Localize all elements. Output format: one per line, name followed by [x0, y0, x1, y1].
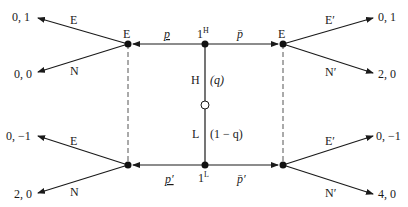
payoff-left-top-E: 0, 1: [12, 10, 30, 24]
label-action-right-top-E: E′: [325, 13, 335, 27]
payoff-left-bottom-N: 2, 0: [14, 187, 32, 201]
label-action-right-bottom-E: E′: [325, 134, 335, 148]
label-action-right-bottom-N: N′: [325, 186, 337, 200]
label-sender-low: 1L: [198, 170, 209, 185]
label-prob-high: (q): [210, 73, 224, 87]
payoff-left-bottom-E: 0, −1: [6, 129, 31, 143]
label-receiver-left: E: [123, 27, 130, 41]
label-action-left-top-N: N: [70, 64, 79, 78]
action-left-bottom-N: [38, 165, 128, 193]
label-action-left-top-E: E: [70, 13, 77, 27]
action-left-bottom-E: [38, 136, 128, 165]
label-sender-high: 1H: [197, 26, 209, 41]
label-action-left-bottom-N: N: [70, 185, 79, 199]
node-left-bottom: [125, 162, 132, 169]
label-signal-low-left: p′: [164, 172, 174, 186]
node-right-top: [280, 41, 287, 48]
node-low-sender: [202, 162, 209, 169]
node-nature: [201, 101, 209, 109]
payoff-left-top-N: 0, 0: [14, 67, 32, 81]
action-left-top-N: [38, 44, 128, 72]
label-action-left-bottom-E: E: [70, 134, 77, 148]
game-tree-diagram: E E 1H 1L H (q) L (1 − q) p p̄ p′ p̄′ E …: [0, 0, 408, 207]
payoff-right-bottom-N: 4, 0: [378, 187, 396, 201]
payoff-right-top-E: 0, 1: [378, 10, 396, 24]
node-right-bottom: [280, 162, 287, 169]
label-signal-high-left: p: [163, 27, 170, 41]
label-branch-high: H: [191, 73, 200, 87]
label-prob-low: (1 − q): [210, 127, 243, 141]
action-left-top-E: [38, 18, 128, 44]
label-branch-low: L: [192, 127, 199, 141]
payoff-right-bottom-E: 0, −1: [376, 129, 401, 143]
node-high-sender: [202, 41, 209, 48]
payoff-right-top-N: 2, 0: [378, 67, 396, 81]
label-action-right-top-N: N′: [325, 65, 337, 79]
label-signal-low-right: p̄′: [236, 172, 246, 186]
label-receiver-right: E: [278, 27, 285, 41]
node-left-top: [125, 41, 132, 48]
label-signal-high-right: p̄: [236, 27, 243, 41]
